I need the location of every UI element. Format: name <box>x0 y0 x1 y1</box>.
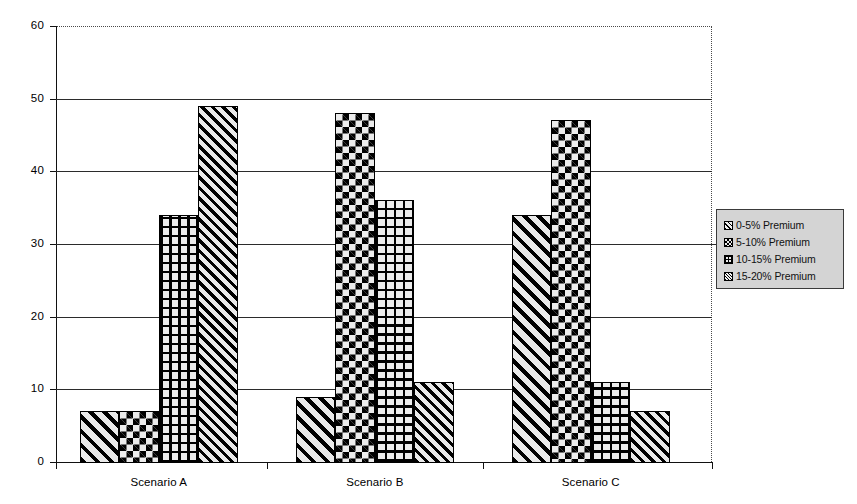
bar <box>198 106 237 463</box>
y-axis-tick <box>50 26 56 27</box>
bar <box>159 215 198 463</box>
y-axis-tick-label: 40 <box>0 165 44 177</box>
y-axis-tick-label: 30 <box>0 238 44 250</box>
legend-swatch-icon <box>724 255 733 264</box>
legend-item-label: 0-5% Premium <box>736 220 804 231</box>
x-axis-tick <box>483 462 484 469</box>
y-axis-tick-label: 20 <box>0 311 44 323</box>
bar <box>630 411 669 463</box>
legend-swatch-icon <box>724 272 733 281</box>
legend-swatch-icon <box>724 221 733 230</box>
y-axis-tick-label: 10 <box>0 383 44 395</box>
x-axis-tick <box>267 462 268 469</box>
y-axis-tick-label: 60 <box>0 20 44 32</box>
y-axis-tick <box>50 99 56 100</box>
legend-item-label: 15-20% Premium <box>736 271 816 282</box>
y-axis-tick <box>50 389 56 390</box>
x-axis-tick <box>56 462 57 469</box>
gridline <box>56 171 712 172</box>
bar <box>591 382 630 463</box>
legend-item: 5-10% Premium <box>724 234 843 251</box>
x-axis-category-label: Scenario A <box>99 477 219 489</box>
bar <box>119 411 158 463</box>
y-axis-tick <box>50 244 56 245</box>
bar <box>512 215 551 463</box>
bar <box>335 113 374 463</box>
x-axis-category-label: Scenario C <box>531 477 651 489</box>
bar-chart: 0102030405060 Scenario AScenario BScenar… <box>0 0 857 504</box>
bar <box>414 382 453 463</box>
bar <box>551 120 590 463</box>
plot-border-top <box>56 26 712 27</box>
legend-item: 0-5% Premium <box>724 217 843 234</box>
bar <box>375 200 414 463</box>
bar <box>80 411 119 463</box>
legend-item-label: 5-10% Premium <box>736 237 810 248</box>
x-axis-category-label: Scenario B <box>315 477 435 489</box>
bar <box>296 397 335 463</box>
legend: 0-5% Premium5-10% Premium10-15% Premium1… <box>716 209 844 289</box>
legend-item: 15-20% Premium <box>724 268 843 285</box>
legend-item: 10-15% Premium <box>724 251 843 268</box>
y-axis-tick-label: 0 <box>0 456 44 468</box>
legend-item-label: 10-15% Premium <box>736 254 816 265</box>
y-axis-tick <box>50 317 56 318</box>
legend-swatch-icon <box>724 238 733 247</box>
legend-connector-line <box>700 244 717 245</box>
x-axis-tick <box>712 462 713 469</box>
y-axis-tick <box>50 171 56 172</box>
y-axis-tick-label: 50 <box>0 93 44 105</box>
gridline <box>56 99 712 100</box>
